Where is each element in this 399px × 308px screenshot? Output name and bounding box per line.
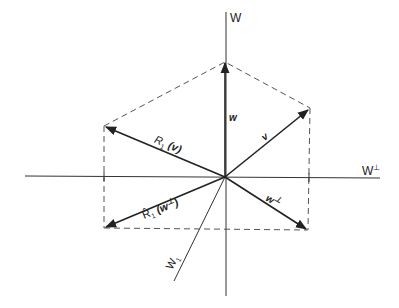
diagram-canvas	[0, 0, 399, 308]
label-vector-w: w	[229, 113, 237, 123]
label-axis-w: W	[230, 12, 241, 24]
label-vector-w-text: w	[229, 112, 237, 123]
label-axis-w-perp-sup: ⊥	[373, 163, 380, 172]
label-axis-w-text: W	[230, 11, 241, 25]
label-axis-w-perp-text: W	[362, 164, 373, 178]
axis-w-perp	[25, 176, 380, 178]
label-axis-w-perp: W⊥	[362, 164, 380, 177]
label-r1-sub: 1	[159, 143, 165, 151]
vector-v	[225, 110, 308, 177]
label-r1hat-sub: 1	[150, 212, 156, 220]
label-r1-arg: v	[170, 140, 180, 153]
